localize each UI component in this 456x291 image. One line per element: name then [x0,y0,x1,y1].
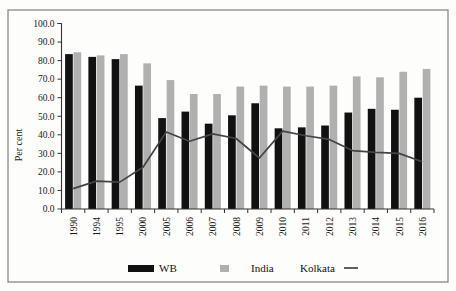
x-tick-label: 2009 [255,217,265,236]
chart-container: Per cent 0.010.020.030.040.050.060.070.0… [0,0,456,291]
y-tick-label: 30.0 [38,149,55,159]
bar-india [97,55,105,209]
bar-india [283,87,291,209]
y-tick-label: 50.0 [38,112,55,122]
bar-wb [414,98,422,209]
legend-label: Kolkata [300,262,335,274]
x-tick-label: 2016 [418,217,428,236]
x-tick-label: 1994 [92,217,102,236]
x-tick-label: 2005 [162,217,172,236]
bar-india [213,94,221,209]
bar-wb [298,127,306,209]
y-tick-label: 90.0 [38,37,55,47]
y-axis-title: Per cent [13,129,24,162]
bar-india [120,54,128,209]
x-tick-label: 2008 [232,217,242,236]
x-tick-label: 2007 [208,217,218,236]
bar-india [143,63,151,209]
y-tick-label: 40.0 [38,130,55,140]
bar-wb [135,86,143,209]
x-tick-label: 2000 [138,217,148,236]
percent-access-chart: Per cent 0.010.020.030.040.050.060.070.0… [0,0,456,291]
y-tick-label: 0.0 [43,204,55,214]
legend-label: India [251,262,274,274]
bar-india [190,94,198,209]
bar-india [353,76,361,209]
y-tick-label: 100.0 [33,19,55,29]
x-tick-label: 2014 [371,217,381,236]
bar-wb [182,112,190,209]
y-tick-label: 80.0 [38,56,55,66]
x-tick-label: 2010 [278,217,288,236]
bar-india [399,72,407,209]
x-tick-label: 2015 [395,217,405,236]
y-tick-label: 20.0 [38,167,55,177]
bar-india [167,80,175,209]
y-tick-label: 70.0 [38,74,55,84]
legend-label: WB [159,262,177,274]
bar-india [330,86,338,209]
x-tick-label: 2006 [185,217,195,236]
bar-wb [275,128,283,209]
bar-india [73,52,81,209]
bar-india [236,87,244,209]
y-tick-label: 60.0 [38,93,55,103]
legend-swatch-wb-icon [128,265,154,272]
bar-india [423,69,431,209]
x-tick-label: 2013 [348,217,358,236]
legend-swatch-india-icon [220,265,229,272]
bar-india [260,86,268,209]
x-tick-label: 1990 [69,217,79,236]
bar-india [376,77,384,209]
bar-wb [344,113,352,209]
bar-wb [65,54,73,209]
bar-wb [391,110,399,209]
bar-wb [88,57,96,209]
y-tick-label: 10.0 [38,186,55,196]
bar-wb [228,115,236,209]
bar-wb [158,118,166,209]
bar-india [306,87,314,209]
x-tick-label: 2011 [301,217,311,236]
bar-wb [368,109,376,209]
bar-wb [112,59,120,209]
x-tick-label: 1995 [115,217,125,236]
x-tick-label: 2012 [325,217,335,236]
